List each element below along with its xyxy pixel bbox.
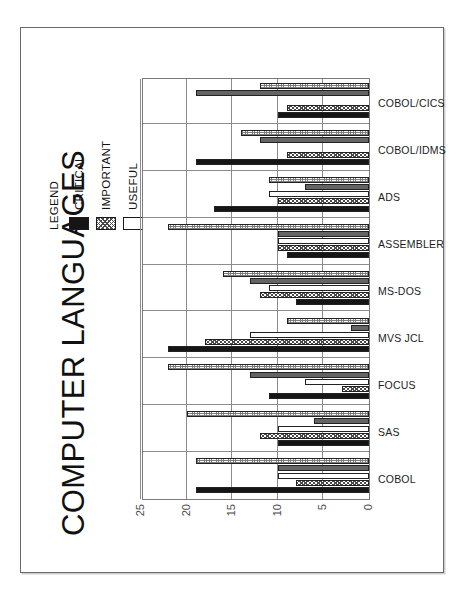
category-label: MS-DOS xyxy=(378,285,421,297)
category-label: FOCUS xyxy=(378,379,416,391)
bar-none xyxy=(241,130,369,136)
category-label: COBOL/CICS xyxy=(378,97,445,109)
bar-none xyxy=(168,364,369,370)
bar-future xyxy=(196,90,369,96)
y-tick-label: 25 xyxy=(134,504,146,530)
bar-important xyxy=(205,339,369,345)
y-tick-label: 20 xyxy=(180,504,192,530)
bar-important xyxy=(278,245,369,251)
bar-future xyxy=(278,465,369,471)
bar-none xyxy=(223,271,369,277)
bar-future xyxy=(305,184,369,190)
bar-important xyxy=(278,198,369,204)
bar-group xyxy=(143,311,369,358)
bar-critical xyxy=(214,206,369,212)
bar-group xyxy=(143,265,369,312)
bar-future xyxy=(260,137,369,143)
y-tick-label: 5 xyxy=(316,504,328,530)
bar-useful xyxy=(278,426,369,432)
bar-none xyxy=(287,318,369,324)
bar-important xyxy=(260,433,369,439)
legend-swatch-critical xyxy=(69,217,89,230)
bar-group xyxy=(143,77,369,124)
legend-item-label: IMPORTANT xyxy=(100,141,112,210)
bar-none xyxy=(196,458,369,464)
bar-none xyxy=(269,177,369,183)
bar-important xyxy=(287,152,369,158)
bar-critical xyxy=(287,253,369,259)
bar-critical xyxy=(168,346,369,352)
y-tick-label: 0 xyxy=(362,504,374,530)
legend-title: LEGEND xyxy=(48,60,60,230)
bar-critical xyxy=(196,159,369,165)
bar-useful xyxy=(305,379,369,385)
bar-future xyxy=(351,325,369,331)
bar-none xyxy=(260,83,369,89)
bar-group xyxy=(143,358,369,405)
bar-future xyxy=(250,278,369,284)
bar-critical xyxy=(269,393,369,399)
legend-item: CRITICAL xyxy=(69,60,89,230)
legend-item-label: CRITICAL xyxy=(73,155,85,210)
bar-group xyxy=(143,452,369,499)
bar-future xyxy=(278,231,369,237)
legend-item: IMPORTANT xyxy=(96,60,116,230)
bar-group xyxy=(143,218,369,265)
category-label: ASSEMBLER xyxy=(378,238,444,250)
bar-none xyxy=(168,224,369,230)
bar-critical xyxy=(278,112,369,118)
bar-future xyxy=(314,419,369,425)
slide-page: COMPUTER LANGUAGES LEGEND CRITICALIMPORT… xyxy=(0,0,466,599)
bar-important xyxy=(342,386,369,392)
plot-area xyxy=(142,78,370,500)
rotated-slide-canvas: COMPUTER LANGUAGES LEGEND CRITICALIMPORT… xyxy=(32,40,432,560)
bar-important xyxy=(260,292,369,298)
category-label: MVS JCL xyxy=(378,332,424,344)
bar-important xyxy=(287,105,369,111)
category-label: COBOL xyxy=(378,473,416,485)
bar-useful xyxy=(278,238,369,244)
bar-important xyxy=(296,480,369,486)
category-label: ADS xyxy=(378,191,400,203)
y-tick-label: 10 xyxy=(271,504,283,530)
gridline-horizontal xyxy=(140,79,141,499)
bar-group xyxy=(143,124,369,171)
bar-group xyxy=(143,171,369,218)
legend-swatch-important xyxy=(96,217,116,230)
category-label: SAS xyxy=(378,426,400,438)
bar-critical xyxy=(296,299,369,305)
bar-group xyxy=(143,405,369,452)
bar-critical xyxy=(278,440,369,446)
bar-useful xyxy=(278,473,369,479)
category-label: COBOL/IDMS xyxy=(378,144,446,156)
legend-item-label: USEFUL xyxy=(127,163,139,210)
y-tick-label: 15 xyxy=(225,504,237,530)
bar-critical xyxy=(196,487,369,493)
page-border: COMPUTER LANGUAGES LEGEND CRITICALIMPORT… xyxy=(20,27,444,573)
bar-future xyxy=(250,372,369,378)
plot-area-wrapper: 0510152025 COBOLSASFOCUSMVS JCLMS-DOSASS… xyxy=(142,78,370,500)
bar-useful xyxy=(250,332,369,338)
bar-none xyxy=(187,411,369,417)
bar-useful xyxy=(269,191,369,197)
bar-useful xyxy=(269,285,369,291)
